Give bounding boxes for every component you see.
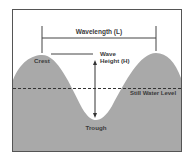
arrow-down-icon xyxy=(93,113,97,118)
still-water-level-label: Still Water Level xyxy=(130,90,176,96)
arrow-up-icon xyxy=(93,60,97,65)
wavelength-label: Wavelength (L) xyxy=(76,28,122,36)
wave-height-label-line2: Height (H) xyxy=(100,57,130,64)
crest-label: Crest xyxy=(34,57,50,64)
wave-height-label-line1: Wave xyxy=(100,50,116,57)
wave-diagram: Wavelength (L) Wave Height (H) Still Wat… xyxy=(0,0,191,162)
water-wave-shape xyxy=(13,53,181,151)
trough-label: Trough xyxy=(86,124,107,131)
